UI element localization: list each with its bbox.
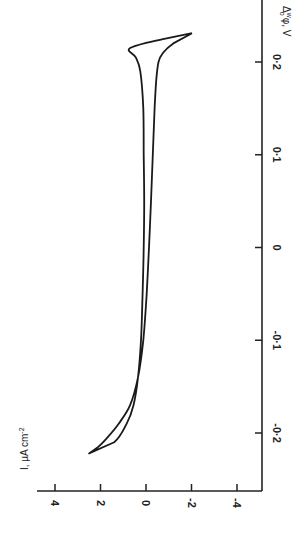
current-ticks: 420-2-4: [49, 484, 243, 509]
current-tick-label: -4: [231, 498, 243, 509]
potential-tick-label: -0·1: [271, 330, 283, 350]
potential-tick-label: 0: [271, 244, 283, 250]
potential-tick-label: -0·2: [271, 423, 283, 443]
cyclic-voltammogram-chart: 0·20·10-0·1-0·2 420-2-4 I, µA cm-2 Δwoφ,…: [0, 0, 297, 540]
cv-curve: [89, 33, 192, 453]
current-tick-label: 2: [95, 500, 107, 506]
potential-tick-label: 0·2: [271, 54, 283, 70]
potential-ticks: 0·20·10-0·1-0·2: [255, 54, 283, 443]
current-axis-title: I, µA cm-2: [18, 427, 30, 470]
potential-tick-label: 0·1: [271, 147, 283, 163]
current-tick-label: -2: [186, 498, 198, 508]
current-tick-label: 4: [49, 500, 61, 507]
potential-axis-title: Δwoφ, V: [279, 6, 293, 37]
current-tick-label: 0: [140, 500, 152, 506]
